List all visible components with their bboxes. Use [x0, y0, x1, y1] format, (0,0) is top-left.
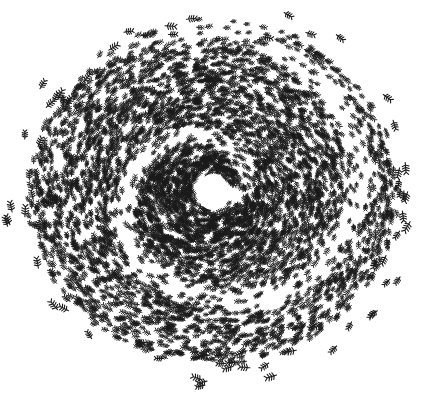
ant-swirl-drawing	[0, 0, 426, 408]
ant-mill-illustration	[0, 0, 426, 408]
swirl-center-hole	[197, 174, 229, 210]
